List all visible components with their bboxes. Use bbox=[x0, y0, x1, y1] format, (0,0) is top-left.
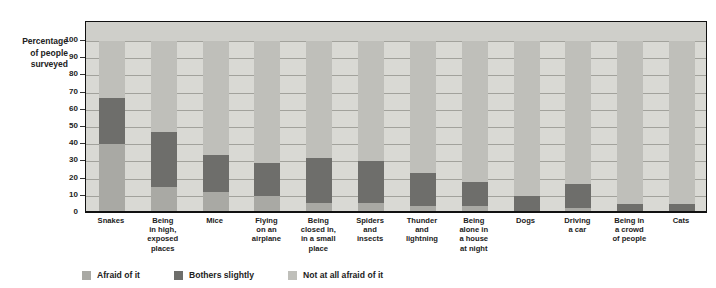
x-category-label-line: place bbox=[291, 244, 345, 253]
y-tick-label: 50 bbox=[58, 122, 78, 130]
y-tick-label: 40 bbox=[58, 139, 78, 147]
bar-segment-afraid bbox=[203, 192, 229, 213]
gridline bbox=[86, 93, 706, 94]
x-category-label-line: Dogs bbox=[499, 216, 553, 225]
bar-segment-not-at-all-afraid bbox=[669, 41, 695, 204]
x-category-label: Dogs bbox=[499, 216, 553, 225]
bar-segment-bothers-slightly bbox=[410, 173, 436, 206]
gridline bbox=[86, 179, 706, 180]
bar-stack[interactable] bbox=[203, 41, 229, 213]
x-category-label: Snakes bbox=[84, 216, 138, 225]
bar-stack[interactable] bbox=[254, 41, 280, 213]
x-category-label-line: a house bbox=[447, 234, 501, 243]
y-tick-mark bbox=[80, 195, 85, 196]
bar-segment-not-at-all-afraid bbox=[462, 41, 488, 182]
gridline bbox=[86, 144, 706, 145]
x-category-label-line: a crowd bbox=[602, 225, 656, 234]
y-tick-mark bbox=[80, 126, 85, 127]
x-category-label: Thunderandlightning bbox=[395, 216, 449, 244]
bar-segment-not-at-all-afraid bbox=[306, 41, 332, 158]
bar-stack[interactable] bbox=[565, 41, 591, 213]
bar-stack[interactable] bbox=[306, 41, 332, 213]
x-category-label-line: in high, bbox=[136, 225, 190, 234]
x-category-label: Beingclosed in,in a smallplace bbox=[291, 216, 345, 253]
x-category-label: Cats bbox=[654, 216, 708, 225]
x-category-label-line: insects bbox=[343, 234, 397, 243]
x-category-label: Beingalone ina houseat night bbox=[447, 216, 501, 253]
y-tick-label: 60 bbox=[58, 105, 78, 113]
fears-stacked-bar-chart: Percentageof peoplesurveyed 010203040506… bbox=[0, 0, 716, 288]
legend-item[interactable]: Bothers slightly bbox=[174, 270, 254, 280]
gridline bbox=[86, 110, 706, 111]
bar-segment-bothers-slightly bbox=[462, 182, 488, 206]
gridline bbox=[86, 196, 706, 197]
bar-stack[interactable] bbox=[151, 41, 177, 213]
bar-segment-not-at-all-afraid bbox=[99, 41, 125, 98]
bar-stack[interactable] bbox=[410, 41, 436, 213]
plot-frame bbox=[85, 21, 707, 213]
y-axis-ticks bbox=[85, 40, 91, 212]
legend-swatch-icon bbox=[288, 271, 297, 280]
y-tick-label: 30 bbox=[58, 156, 78, 164]
legend-label: Not at all afraid of it bbox=[303, 270, 383, 280]
y-tick-mark bbox=[80, 143, 85, 144]
x-category-label: Spidersandinsects bbox=[343, 216, 397, 244]
bar-segment-not-at-all-afraid bbox=[254, 41, 280, 163]
bar-segment-bothers-slightly bbox=[151, 132, 177, 187]
x-category-label-line: exposed bbox=[136, 234, 190, 243]
gridline bbox=[86, 75, 706, 76]
bar-segment-not-at-all-afraid bbox=[617, 41, 643, 204]
y-tick-label: 100 bbox=[58, 36, 78, 44]
bar-stack[interactable] bbox=[358, 41, 384, 213]
bar-segment-afraid bbox=[151, 187, 177, 213]
y-tick-mark bbox=[80, 40, 85, 41]
bar-segment-not-at-all-afraid bbox=[565, 41, 591, 184]
x-axis-baseline bbox=[86, 211, 706, 213]
bar-segment-bothers-slightly bbox=[99, 98, 125, 144]
x-category-label-line: lightning bbox=[395, 234, 449, 243]
y-tick-label: 10 bbox=[58, 191, 78, 199]
bar-stack[interactable] bbox=[462, 41, 488, 213]
x-category-label-line: of people bbox=[602, 234, 656, 243]
y-tick-label: 0 bbox=[58, 208, 78, 216]
bar-segment-afraid bbox=[99, 144, 125, 213]
x-category-label-line: alone in bbox=[447, 225, 501, 234]
x-category-label-line: Being bbox=[447, 216, 501, 225]
x-category-label-line: Spiders bbox=[343, 216, 397, 225]
bar-segment-bothers-slightly bbox=[514, 196, 540, 211]
bar-segment-not-at-all-afraid bbox=[358, 41, 384, 161]
bar-stack[interactable] bbox=[669, 41, 695, 213]
bar-segment-bothers-slightly bbox=[203, 155, 229, 193]
legend-label: Afraid of it bbox=[97, 270, 140, 280]
bar-segment-bothers-slightly bbox=[254, 163, 280, 196]
y-axis-tick-labels: 0102030405060708090100 bbox=[58, 34, 78, 220]
y-tick-label: 20 bbox=[58, 174, 78, 182]
x-category-label-line: on an bbox=[239, 225, 293, 234]
x-category-label-line: and bbox=[343, 225, 397, 234]
plot-header-strip bbox=[86, 22, 706, 41]
x-category-label-line: Mice bbox=[188, 216, 242, 225]
x-category-label-line: Being bbox=[291, 216, 345, 225]
legend-item[interactable]: Afraid of it bbox=[82, 270, 140, 280]
x-axis-category-labels: SnakesBeingin high,exposedplacesMiceFlyi… bbox=[85, 216, 707, 266]
bar-segment-not-at-all-afraid bbox=[203, 41, 229, 155]
x-category-label-line: Being in bbox=[602, 216, 656, 225]
gridline bbox=[86, 41, 706, 42]
x-category-label: Being ina crowdof people bbox=[602, 216, 656, 244]
x-category-label-line: a car bbox=[550, 225, 604, 234]
bar-stack[interactable] bbox=[514, 41, 540, 213]
x-category-label-line: Cats bbox=[654, 216, 708, 225]
x-category-label-line: at night bbox=[447, 244, 501, 253]
clipped-chart-title bbox=[0, 0, 716, 12]
x-category-label-line: Thunder bbox=[395, 216, 449, 225]
bar-stack[interactable] bbox=[617, 41, 643, 213]
chart-legend: Afraid of itBothers slightlyNot at all a… bbox=[82, 268, 417, 282]
gridline bbox=[86, 161, 706, 162]
legend-swatch-icon bbox=[82, 271, 91, 280]
x-category-label-line: Flying bbox=[239, 216, 293, 225]
y-tick-mark bbox=[80, 160, 85, 161]
legend-item[interactable]: Not at all afraid of it bbox=[288, 270, 383, 280]
y-tick-mark bbox=[80, 92, 85, 93]
bar-stack[interactable] bbox=[99, 41, 125, 213]
bar-segment-not-at-all-afraid bbox=[514, 41, 540, 196]
